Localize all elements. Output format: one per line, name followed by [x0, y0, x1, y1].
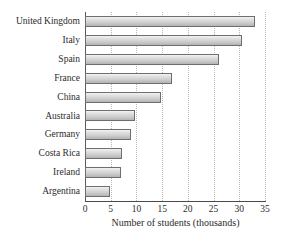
x-tick-label-35: 35: [260, 203, 270, 216]
x-axis-line: [85, 201, 266, 202]
y-axis-label-australia: Australia: [45, 107, 80, 126]
y-axis-label-germany: Germany: [45, 125, 80, 144]
clipped-chart-title: [120, 0, 250, 2]
x-tick-label-25: 25: [209, 203, 219, 216]
x-tick-label-0: 0: [83, 203, 88, 216]
y-axis-label-costa-rica: Costa Rica: [39, 144, 80, 163]
y-axis-label-spain: Spain: [58, 50, 80, 69]
bar-row: [85, 12, 265, 31]
bar-row: [85, 31, 265, 50]
y-axis-label-argentina: Argentina: [42, 182, 80, 201]
x-tick-label-5: 5: [108, 203, 113, 216]
bar-row: [85, 182, 265, 201]
bar-united-kingdom: [85, 16, 255, 27]
bar-france: [85, 73, 172, 84]
x-axis-title: Number of students (thousands): [0, 217, 281, 228]
x-tick-label-15: 15: [157, 203, 167, 216]
bar-argentina: [85, 186, 110, 197]
bar-row: [85, 163, 265, 182]
y-axis-label-united-kingdom: United Kingdom: [16, 12, 80, 31]
bar-australia: [85, 110, 135, 121]
bar-row: [85, 144, 265, 163]
x-tick-label-20: 20: [183, 203, 193, 216]
x-axis-title-text: Number of students (thousands): [41, 217, 239, 228]
y-axis-category-labels: United KingdomItalySpainFranceChinaAustr…: [0, 12, 82, 201]
x-tick-label-30: 30: [235, 203, 245, 216]
bar-series: [85, 12, 265, 201]
bar-costa-rica: [85, 148, 122, 159]
y-axis-label-ireland: Ireland: [53, 163, 80, 182]
bar-germany: [85, 129, 131, 140]
plot-area: [85, 12, 265, 201]
y-axis-label-china: China: [57, 88, 80, 107]
bar-row: [85, 125, 265, 144]
bar-italy: [85, 35, 242, 46]
bar-row: [85, 88, 265, 107]
x-tick-label-10: 10: [132, 203, 142, 216]
bar-china: [85, 92, 161, 103]
bar-row: [85, 69, 265, 88]
y-axis-label-france: France: [54, 69, 80, 88]
bar-row: [85, 50, 265, 69]
bar-row: [85, 107, 265, 126]
gridline-35: [265, 12, 267, 201]
bar-ireland: [85, 167, 121, 178]
bar-spain: [85, 54, 219, 65]
x-axis-tick-labels: 05101520253035: [0, 203, 281, 216]
bar-chart: United KingdomItalySpainFranceChinaAustr…: [0, 0, 281, 239]
y-axis-label-italy: Italy: [63, 31, 80, 50]
